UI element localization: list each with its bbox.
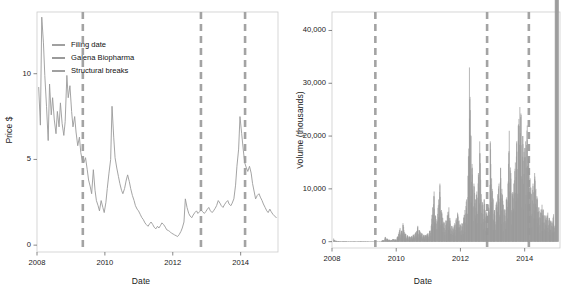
- legend-label-filing-date: Filing date: [71, 41, 106, 49]
- y-tick-label: 40,000: [284, 25, 326, 34]
- line-key-galena-icon: [52, 57, 65, 59]
- x-tick-label: 2012: [163, 258, 183, 267]
- y-tick-label: 0: [284, 237, 326, 246]
- y-tick-label: 10: [0, 69, 31, 78]
- x-tick-label: 2014: [515, 254, 535, 263]
- line-key-filing-date-icon: [52, 44, 65, 46]
- price-y-axis-title: Price $: [4, 105, 14, 155]
- y-tick-label: 10,000: [284, 184, 326, 193]
- chart-legend: Filing date Galena Biopharma Structural …: [52, 38, 134, 77]
- y-tick-label: 20,000: [284, 131, 326, 140]
- volume-plot-svg: [282, 0, 564, 293]
- x-tick-label: 2014: [231, 258, 251, 267]
- x-tick-label: 2010: [386, 254, 406, 263]
- x-tick-label: 2012: [450, 254, 470, 263]
- legend-label-structural-breaks: Structural breaks: [71, 67, 128, 75]
- y-tick-label: 0: [0, 240, 31, 249]
- legend-item-filing-date: Filing date: [52, 38, 134, 51]
- volume-y-axis-title: Volume (thousands): [295, 75, 305, 185]
- volume-chart-panel: 2008201020122014 010,00020,00030,00040,0…: [282, 0, 564, 293]
- price-x-axis-title: Date: [0, 276, 282, 286]
- x-tick-label: 2008: [27, 258, 47, 267]
- figure-root: 2008201020122014 0510 Date Price $ Filin…: [0, 0, 564, 293]
- legend-item-structural-breaks: Structural breaks: [52, 64, 134, 77]
- volume-series-bars: [334, 0, 559, 242]
- volume-structural-break-lines: [375, 12, 528, 248]
- price-chart-panel: 2008201020122014 0510 Date Price $ Filin…: [0, 0, 282, 293]
- line-key-breaks-icon: [52, 70, 65, 72]
- price-plot-svg: [0, 0, 282, 293]
- legend-label-galena-biopharma: Galena Biopharma: [71, 54, 134, 62]
- volume-x-axis-title: Date: [282, 276, 564, 286]
- y-tick-label: 5: [0, 154, 31, 163]
- x-tick-label: 2010: [95, 258, 115, 267]
- legend-item-galena-biopharma: Galena Biopharma: [52, 51, 134, 64]
- y-tick-label: 30,000: [284, 78, 326, 87]
- x-tick-label: 2008: [322, 254, 342, 263]
